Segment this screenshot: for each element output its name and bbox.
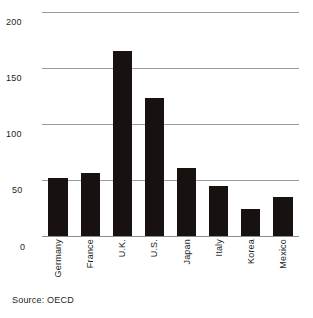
- y-tick-label-150: 150: [6, 74, 38, 83]
- axis-baseline-0: [42, 236, 299, 237]
- bar-slot-germany: [42, 12, 74, 236]
- y-tick-label-50: 50: [12, 186, 44, 195]
- x-tick-label-italy: Italy: [214, 239, 223, 257]
- x-label-slot-korea: Korea: [235, 239, 267, 291]
- bar-slot-us: [138, 12, 170, 236]
- x-label-slot-us: U.S.: [138, 239, 170, 291]
- source-note: Source: OECD: [12, 295, 74, 305]
- bar-chart-figure: 200 150 100 50 0 Germany France U.K. U.S…: [0, 0, 313, 318]
- bar-us: [145, 98, 164, 236]
- bar-mexico: [273, 197, 292, 236]
- x-axis-labels: Germany France U.K. U.S. Japan Italy Kor…: [42, 239, 299, 291]
- bar-slot-japan: [171, 12, 203, 236]
- x-tick-label-korea: Korea: [246, 239, 255, 264]
- bar-slot-france: [74, 12, 106, 236]
- x-label-slot-uk: U.K.: [106, 239, 138, 291]
- bar-germany: [48, 178, 67, 236]
- plot-area: [42, 12, 299, 236]
- x-label-slot-france: France: [74, 239, 106, 291]
- x-tick-label-uk: U.K.: [118, 239, 127, 257]
- bar-slot-mexico: [267, 12, 299, 236]
- x-tick-label-us: U.S.: [150, 239, 159, 257]
- x-label-slot-italy: Italy: [203, 239, 235, 291]
- bar-italy: [209, 186, 228, 236]
- x-tick-label-mexico: Mexico: [278, 239, 287, 269]
- x-label-slot-mexico: Mexico: [267, 239, 299, 291]
- bars-group: [42, 12, 299, 236]
- x-label-slot-japan: Japan: [171, 239, 203, 291]
- x-tick-label-germany: Germany: [54, 239, 63, 277]
- x-tick-label-france: France: [86, 239, 95, 268]
- bar-korea: [241, 209, 260, 236]
- x-label-slot-germany: Germany: [42, 239, 74, 291]
- bar-japan: [177, 168, 196, 236]
- y-tick-label-200: 200: [6, 18, 38, 27]
- x-tick-label-japan: Japan: [182, 239, 191, 265]
- bar-uk: [113, 51, 132, 236]
- y-tick-label-100: 100: [6, 130, 38, 139]
- bar-slot-korea: [235, 12, 267, 236]
- bar-france: [81, 173, 100, 236]
- bar-slot-italy: [203, 12, 235, 236]
- bar-slot-uk: [106, 12, 138, 236]
